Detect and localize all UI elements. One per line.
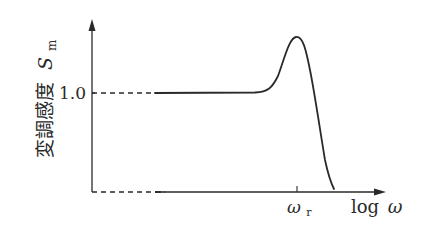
y-tick-label: 1.0	[59, 83, 86, 103]
response-curve	[155, 37, 334, 189]
omega-r-label: ω r	[287, 197, 312, 219]
y-axis-label-text: 変調感度	[34, 82, 56, 158]
x-axis-label-symbol: ω	[388, 196, 403, 217]
y-axis-arrow-icon	[89, 19, 96, 31]
x-axis-arrow-icon	[374, 189, 386, 196]
modulation-sensitivity-diagram: 1.0 変調感度 S m ω r log ω	[0, 0, 421, 229]
y-axis-label-symbol: S	[34, 57, 56, 70]
x-axis-label-prefix: log	[351, 196, 379, 217]
y-axis-label: 変調感度 S m	[34, 39, 59, 158]
x-axis-label: log ω	[351, 196, 403, 217]
omega-r-subscript: r	[306, 206, 312, 219]
omega-r-symbol: ω	[287, 197, 301, 217]
y-axis-label-subscript: m	[45, 39, 59, 51]
svg-text:変調感度 S m: 変調感度 S m	[34, 39, 59, 158]
